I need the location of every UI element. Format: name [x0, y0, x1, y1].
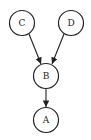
node-d: D [59, 11, 84, 36]
edge-d-to-b [52, 34, 64, 64]
node-c-label: C [19, 18, 26, 28]
graph-canvas: C D B A [0, 0, 91, 140]
node-b: B [34, 64, 59, 89]
node-a-label: A [42, 115, 50, 125]
node-c: C [10, 11, 35, 36]
edge-c-to-b [29, 34, 41, 64]
node-b-label: B [43, 71, 50, 81]
node-a: A [34, 108, 59, 133]
node-d-label: D [67, 18, 74, 28]
